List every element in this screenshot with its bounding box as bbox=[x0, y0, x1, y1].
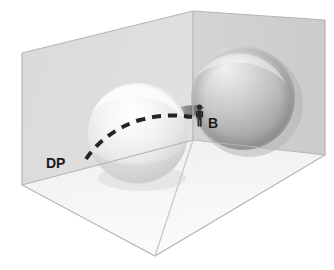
label-dp: DP bbox=[46, 155, 65, 171]
figure-root: DP B bbox=[0, 0, 334, 270]
three-dimensional-scene: DP B bbox=[0, 0, 334, 270]
label-b: B bbox=[208, 115, 218, 131]
